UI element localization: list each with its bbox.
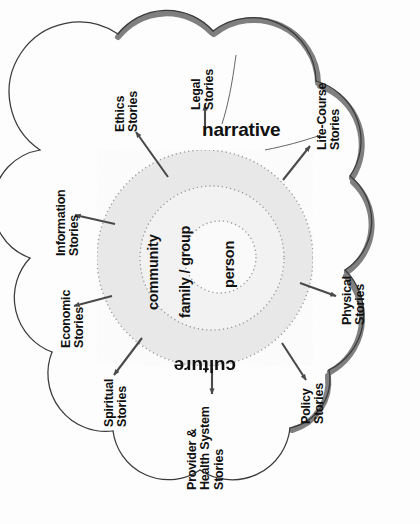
story-label-provider-health: Provider & Health System Stories (186, 406, 226, 490)
story-label-life-course: Life-Course Stories (316, 83, 343, 150)
story-label-economic: Economic Stories (60, 290, 87, 348)
story-label-ethics: Ethics Stories (114, 91, 141, 132)
diagram-canvas: narrative culture community family / gro… (0, 0, 420, 524)
ring-label-person: person (222, 241, 237, 288)
ring-label-family-group: family / group (178, 226, 193, 318)
story-label-information: Information Stories (55, 189, 82, 256)
story-label-spiritual: Spiritual Stories (103, 379, 130, 427)
core-rings (97, 150, 313, 366)
story-label-legal: Legal Stories (190, 69, 217, 110)
ring-label-community: community (146, 234, 161, 310)
axis-label-narrative: narrative (202, 120, 280, 140)
axis-label-culture: culture (174, 356, 236, 376)
arrow-spiritual (114, 338, 142, 375)
arrow-life-course (283, 146, 310, 180)
arrow-policy (282, 343, 306, 380)
story-label-policy: Policy Stories (300, 383, 327, 424)
ring-person (184, 221, 256, 293)
story-label-physical: Physical Stories (341, 276, 368, 325)
